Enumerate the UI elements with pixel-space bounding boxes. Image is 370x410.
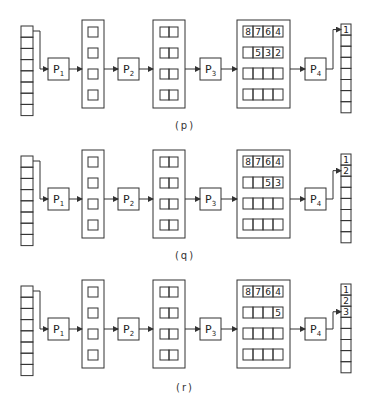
quad-value: 4: [275, 157, 281, 167]
output-value: 1: [343, 155, 349, 165]
output-column: 123: [341, 284, 351, 373]
input-cell: [21, 60, 33, 71]
input-cell: [21, 82, 33, 93]
quad-slot: [273, 219, 283, 230]
output-cell: [341, 198, 351, 209]
quad-slot: [253, 328, 263, 339]
quad-value: 2: [275, 48, 281, 58]
double-slot-left: [160, 287, 169, 297]
quad-value: 6: [265, 27, 271, 37]
output-cell: [341, 232, 351, 243]
quad-row: 8764: [243, 156, 283, 167]
input-cell: [21, 331, 33, 342]
quad-value: 7: [255, 157, 261, 167]
double-slot-right: [169, 329, 178, 339]
double-slot-left: [160, 350, 169, 360]
single-slot: [88, 157, 98, 167]
quad-slot: [243, 307, 253, 318]
processor-p4: P4: [305, 188, 326, 210]
processor-label: P1: [53, 323, 64, 338]
quad-row: [243, 219, 283, 230]
input-cell: [21, 156, 33, 167]
double-buffer-box: [153, 20, 185, 108]
double-slot-left: [160, 90, 169, 100]
quad-slot: [243, 349, 253, 360]
double-slot-right: [169, 27, 178, 37]
double-slot-left: [160, 69, 169, 79]
quad-slot: [263, 328, 273, 339]
quad-slot: [263, 219, 273, 230]
output-cell: [341, 68, 351, 79]
buffer-frame: [82, 280, 104, 368]
double-slot-left: [160, 157, 169, 167]
processor-label: P4: [310, 193, 322, 208]
quad-value: 4: [275, 287, 281, 297]
processor-label: P3: [205, 63, 216, 78]
panel-caption-p: (p): [165, 120, 205, 131]
processor-p2: P2: [118, 58, 139, 80]
single-slot: [88, 308, 98, 318]
quad-slot: [243, 68, 253, 79]
quad-slot: [243, 47, 253, 58]
quad-row: [243, 328, 283, 339]
panel-caption-q: (q): [165, 250, 205, 261]
input-column: [21, 26, 33, 116]
output-value: 2: [343, 296, 349, 306]
processor-label: P1: [53, 193, 64, 208]
quad-slot: [253, 349, 263, 360]
quad-buffer-box: 876453: [237, 150, 290, 238]
processor-p2: P2: [118, 188, 139, 210]
output-value: 1: [343, 285, 349, 295]
quad-row: 532: [243, 47, 283, 58]
single-buffer-box: [82, 20, 104, 108]
processor-p3: P3: [200, 58, 221, 80]
double-slot-right: [169, 178, 178, 188]
double-slot-left: [160, 178, 169, 188]
quad-slot: [263, 198, 273, 209]
quad-row: [243, 198, 283, 209]
panel-p: P1P2P38764532P41: [21, 20, 351, 116]
input-cell: [21, 26, 33, 37]
quad-buffer-box: 87645: [237, 280, 290, 368]
processor-p4: P4: [305, 58, 326, 80]
quad-slot: [243, 198, 253, 209]
single-slot: [88, 27, 98, 37]
quad-slot: [263, 349, 273, 360]
quad-slot: [263, 307, 273, 318]
double-slot-right: [169, 69, 178, 79]
output-cell: [341, 176, 351, 187]
double-slot-right: [169, 157, 178, 167]
output-cell: [341, 80, 351, 91]
single-slot: [88, 178, 98, 188]
output-column: 12: [341, 154, 351, 243]
quad-value: 6: [265, 157, 271, 167]
processor-label: P3: [205, 323, 216, 338]
input-cell: [21, 223, 33, 234]
double-slot-right: [169, 308, 178, 318]
arrow-input-to-p1: [33, 161, 48, 199]
output-value: 2: [343, 166, 349, 176]
pipeline-diagram: P1P2P38764532P41P1P2P3876453P412P1P2P387…: [0, 0, 370, 410]
processor-label: P2: [123, 193, 134, 208]
single-slot: [88, 329, 98, 339]
double-slot-left: [160, 48, 169, 58]
input-cell: [21, 286, 33, 297]
output-cell: [341, 46, 351, 57]
quad-slot: [273, 68, 283, 79]
quad-value: 8: [245, 287, 251, 297]
quad-slot: [243, 219, 253, 230]
input-cell: [21, 212, 33, 223]
arrow-input-to-p1: [33, 291, 48, 329]
single-slot: [88, 90, 98, 100]
quad-buffer-box: 8764532: [237, 20, 290, 108]
quad-slot: [243, 89, 253, 100]
quad-row: 8764: [243, 286, 283, 297]
double-slot-right: [169, 199, 178, 209]
input-cell: [21, 308, 33, 319]
processor-p3: P3: [200, 188, 221, 210]
quad-slot: [253, 307, 263, 318]
output-column: 1: [341, 24, 351, 113]
single-slot: [88, 220, 98, 230]
quad-value: 6: [265, 287, 271, 297]
single-slot: [88, 350, 98, 360]
